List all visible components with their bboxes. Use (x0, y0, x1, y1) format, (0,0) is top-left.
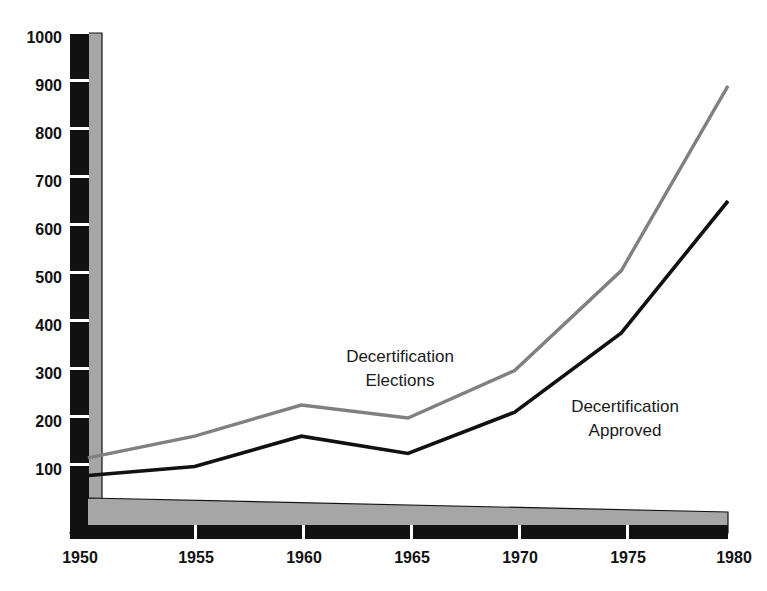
y-axis-label-800: 800 (35, 125, 62, 142)
y-tick-400 (70, 319, 89, 322)
y-axis-label-400: 400 (35, 317, 62, 334)
x-axis-tick-labels: 1950 1955 1960 1965 1970 1975 1980 (62, 549, 752, 566)
annotation-elections-line2: Elections (366, 371, 435, 390)
axis-assembly (70, 31, 728, 539)
x-axis-label-1965: 1965 (394, 549, 430, 566)
y-tick-100 (70, 463, 89, 466)
y-tick-800 (70, 127, 89, 130)
y-axis-tick-labels: 1000 900 800 700 600 500 400 300 200 100 (26, 29, 62, 478)
x-axis-label-1950: 1950 (62, 549, 98, 566)
annotation-approved-line1: Decertification (571, 397, 679, 416)
y-axis-label-600: 600 (35, 221, 62, 238)
annotation-approved-line2: Approved (589, 421, 662, 440)
y-axis-label-300: 300 (35, 365, 62, 382)
y-tick-1000 (70, 31, 89, 34)
annotation-decertification-approved: Decertification Approved (571, 397, 679, 440)
y-tick-300 (70, 367, 89, 370)
x-axis-label-1970: 1970 (502, 549, 538, 566)
y-axis-label-100: 100 (35, 461, 62, 478)
x-tick-1970 (518, 525, 521, 539)
y-tick-600 (70, 223, 89, 226)
series-group (88, 86, 728, 476)
x-tick-1960 (302, 525, 305, 539)
axis-corner-joint (70, 498, 88, 539)
annotation-elections-line1: Decertification (346, 347, 454, 366)
x-axis-label-1980: 1980 (716, 549, 752, 566)
chart-page: 1000 900 800 700 600 500 400 300 200 100… (0, 0, 767, 591)
x-tick-1955 (194, 525, 197, 539)
x-tick-1965 (410, 525, 413, 539)
x-axis-label-1960: 1960 (286, 549, 322, 566)
x-axis-label-1975: 1975 (610, 549, 646, 566)
y-axis-side-face (88, 33, 102, 512)
y-axis-label-900: 900 (35, 77, 62, 94)
y-axis-label-1000: 1000 (26, 29, 62, 46)
x-tick-1975 (626, 525, 629, 539)
y-tick-200 (70, 415, 89, 418)
y-tick-700 (70, 175, 89, 178)
y-axis-bar (70, 33, 89, 532)
y-axis-label-700: 700 (35, 173, 62, 190)
annotation-decertification-elections: Decertification Elections (346, 347, 454, 390)
y-axis-label-500: 500 (35, 269, 62, 286)
y-axis-label-200: 200 (35, 413, 62, 430)
x-axis-label-1955: 1955 (178, 549, 214, 566)
line-chart: 1000 900 800 700 600 500 400 300 200 100… (0, 0, 767, 591)
y-tick-500 (70, 271, 89, 274)
y-tick-900 (70, 79, 89, 82)
x-axis-bar (70, 525, 728, 539)
